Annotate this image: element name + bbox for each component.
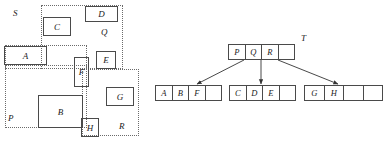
- data-rect-e: E: [96, 51, 116, 69]
- root-node-cell-2: R: [262, 45, 279, 59]
- data-rect-h: H: [81, 118, 99, 137]
- data-rect-label-e: E: [97, 56, 115, 65]
- data-rect-c: C: [43, 17, 71, 36]
- leaf-node-2-cell-2: E: [263, 86, 280, 100]
- data-rect-a: A: [4, 46, 47, 65]
- leaf-node-3-cell-1: H: [325, 86, 345, 100]
- leaf-node-2: CDE: [229, 85, 296, 101]
- data-rect-g: G: [106, 87, 134, 106]
- data-rect-label-d: D: [86, 10, 117, 19]
- edge-p-to-leaf1: [197, 60, 244, 84]
- root-node-cell-1: Q: [246, 45, 263, 59]
- leaf-node-3-cell-0: G: [305, 86, 325, 100]
- mbr-label-q: Q: [101, 28, 108, 37]
- diagram-canvas: SQPRABCDEFGH PQRABFCDEGHT: [0, 0, 383, 143]
- leaf-node-1-cell-3: [206, 86, 222, 100]
- mbr-label-p: P: [8, 114, 14, 123]
- leaf-node-2-cell-3: [280, 86, 296, 100]
- data-rect-d: D: [85, 6, 118, 22]
- data-rect-b: B: [38, 95, 83, 128]
- leaf-node-3: GH: [304, 85, 383, 101]
- data-rect-label-h: H: [82, 123, 98, 132]
- data-rect-f: F: [74, 57, 89, 87]
- leaf-node-3-cell-3: [364, 86, 383, 100]
- edge-r-to-leaf3: [278, 60, 338, 84]
- root-node-cell-0: P: [229, 45, 246, 59]
- leaf-node-2-cell-0: C: [230, 86, 247, 100]
- data-rect-label-f: F: [75, 68, 88, 77]
- root-node-cell-3: [279, 45, 295, 59]
- data-rect-label-c: C: [44, 22, 70, 31]
- leaf-node-1-cell-2: F: [189, 86, 206, 100]
- data-rect-label-b: B: [39, 107, 82, 116]
- data-rect-label-g: G: [107, 92, 133, 101]
- root-node: PQR: [228, 44, 295, 60]
- mbr-label-s: S: [13, 9, 18, 18]
- leaf-node-1-cell-1: B: [173, 86, 190, 100]
- leaf-node-1-cell-0: A: [156, 86, 173, 100]
- mbr-label-r: R: [119, 122, 125, 131]
- leaf-node-2-cell-1: D: [247, 86, 264, 100]
- leaf-node-3-cell-2: [344, 86, 364, 100]
- tree-root-label: T: [301, 34, 306, 43]
- data-rect-label-a: A: [5, 51, 46, 60]
- leaf-node-1: ABF: [155, 85, 222, 101]
